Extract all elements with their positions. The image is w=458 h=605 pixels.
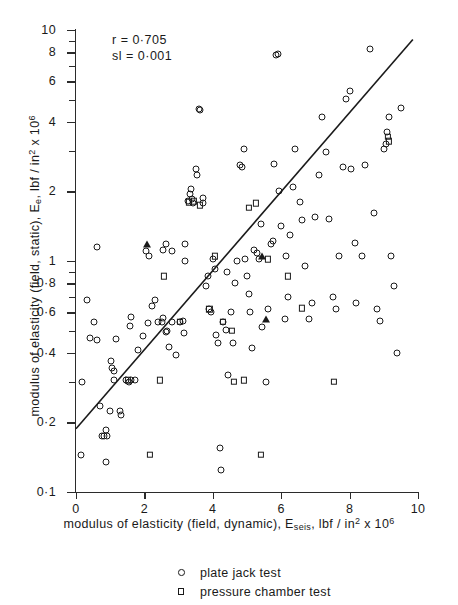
y-tick-label: 0·1 [37, 485, 56, 499]
y-axis-title: modulus of elasticity (field, static), E… [27, 86, 43, 446]
data-point-circle [312, 214, 319, 221]
data-point-circle [319, 114, 326, 121]
data-point-circle [332, 305, 339, 312]
x-tick-major: 4 [213, 492, 214, 499]
data-point-circle [286, 231, 293, 238]
y-axis-title-superscript: 2 [27, 149, 37, 154]
data-point-circle [214, 340, 221, 347]
data-point-square [211, 253, 217, 260]
data-point-circle [348, 166, 355, 173]
data-point-square [229, 327, 235, 334]
y-axis-title-subscript: e [33, 199, 43, 204]
data-point-square [258, 451, 264, 458]
x-tick-label: 6 [278, 502, 285, 516]
data-point-circle [168, 248, 175, 255]
square-icon [178, 588, 184, 594]
data-point-circle [194, 172, 201, 179]
x-axis-title-prefix: modulus of elasticity (field, dynamic), … [63, 517, 293, 531]
data-point-square [206, 306, 212, 313]
data-point-circle [162, 241, 169, 248]
x-tick-label: 10 [411, 502, 426, 516]
data-point-circle [139, 332, 146, 339]
data-point-circle [322, 149, 329, 156]
data-point-circle [245, 290, 252, 297]
plot-area: r = 0·705 sl = 0·001 0·10·20·40·60·81246… [76, 30, 418, 492]
y-tick-label: 6 [49, 74, 56, 88]
y-tick-label: 8 [49, 45, 56, 59]
data-point-circle [160, 315, 167, 322]
data-point-circle [276, 188, 283, 195]
data-point-circle [240, 146, 247, 153]
data-point-circle [151, 297, 158, 304]
data-point-circle [131, 377, 138, 384]
x-tick-label: 8 [346, 502, 353, 516]
data-point-circle [351, 239, 358, 246]
legend-item: plate jack test [178, 563, 331, 582]
data-point-circle [182, 241, 189, 248]
y-tick-label: 10 [41, 23, 56, 37]
data-point-circle [370, 209, 377, 216]
data-point-circle [232, 280, 239, 287]
data-point-circle [361, 162, 368, 169]
y-tick-minor [69, 272, 76, 273]
data-point-circle [397, 104, 404, 111]
data-point-circle [227, 309, 234, 316]
data-point-circle [211, 266, 218, 273]
data-point-circle [308, 299, 315, 306]
data-point-circle [291, 146, 298, 153]
data-point-circle [353, 299, 360, 306]
data-point-circle [259, 323, 266, 330]
data-point-circle [134, 347, 141, 354]
data-point-circle [249, 345, 256, 352]
data-point-circle [394, 349, 401, 356]
data-point-circle [343, 95, 350, 102]
x-tick-major: 0 [76, 492, 77, 499]
legend-label: plate jack test [200, 566, 281, 580]
y-tick-minor [69, 151, 76, 152]
x-axis-title: modulus of elasticity (field, dynamic), … [0, 516, 458, 532]
y-tick-major: 2 [67, 191, 76, 192]
x-tick-label: 4 [209, 502, 216, 516]
data-point-circle [373, 305, 380, 312]
y-axis-title-prefix: modulus of elasticity (field, static), E [28, 204, 42, 417]
data-point-circle [242, 256, 249, 263]
x-tick-label: 2 [141, 502, 148, 516]
data-point-square [246, 204, 252, 211]
data-point-circle [336, 253, 343, 260]
data-point-circle [264, 305, 271, 312]
y-tick-minor [69, 66, 76, 67]
data-point-circle [387, 253, 394, 260]
data-point-circle [271, 161, 278, 168]
data-point-circle [94, 337, 101, 344]
y-axis-title-mid: , lbf / in [28, 155, 42, 199]
data-point-circle [127, 313, 134, 320]
data-point-square [125, 377, 131, 384]
data-point-circle [110, 367, 117, 374]
data-point-circle [144, 319, 151, 326]
data-point-square [220, 319, 226, 326]
data-point-circle [283, 253, 290, 260]
x-tick-major: 6 [281, 492, 282, 499]
data-point-circle [244, 273, 251, 280]
y-tick-label: 1 [49, 254, 56, 268]
data-point-triangle [143, 241, 151, 248]
data-point-circle [84, 296, 91, 303]
data-point-circle [233, 258, 240, 265]
data-point-circle [204, 273, 211, 280]
data-point-circle [391, 282, 398, 289]
legend-marker-square [178, 588, 200, 594]
y-tick-minor [69, 297, 76, 298]
circle-icon [178, 569, 185, 576]
data-point-circle [181, 258, 188, 265]
data-point-circle [247, 309, 254, 316]
data-point-circle [166, 343, 173, 350]
data-point-circle [103, 432, 110, 439]
data-point-circle [305, 316, 312, 323]
y-tick-major: 1 [67, 261, 76, 262]
legend-label: pressure chamber test [200, 585, 331, 599]
y-tick-minor [69, 41, 76, 42]
y-tick-major: 0·4 [67, 353, 76, 354]
data-point-circle [269, 238, 276, 245]
y-axis-title-superscript2: 6 [27, 115, 37, 120]
data-point-square [252, 200, 258, 207]
